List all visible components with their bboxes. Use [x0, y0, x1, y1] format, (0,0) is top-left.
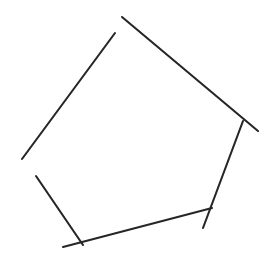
canvas-background — [0, 0, 277, 273]
figure-canvas — [0, 0, 277, 273]
pentagon-figure — [0, 0, 277, 273]
